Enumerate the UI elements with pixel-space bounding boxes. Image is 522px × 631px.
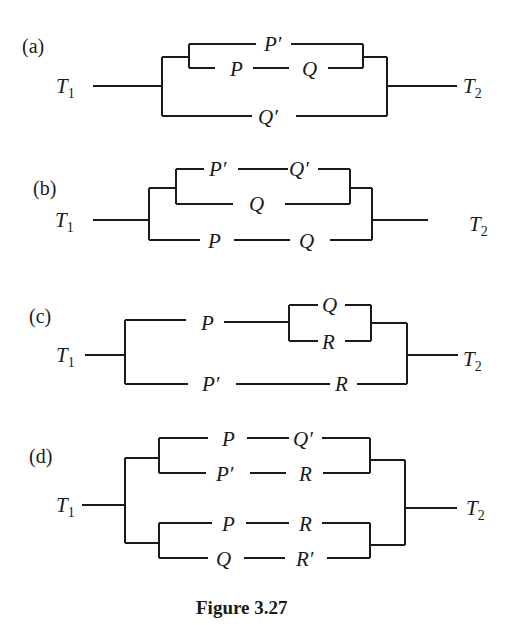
switch-d-g1-top-left: P xyxy=(221,427,235,451)
terminal-t2-a: T2 xyxy=(463,74,482,101)
circuit-a: (a) T1 T2 P′ P Q Q′ xyxy=(22,32,482,129)
switch-a-mid-left: P xyxy=(229,57,243,81)
switch-a-bottom: Q′ xyxy=(258,105,278,129)
switch-b-top-left: P′ xyxy=(208,157,227,181)
wires-d xyxy=(82,438,457,558)
switch-d-g2-top-left: P xyxy=(221,512,235,536)
figure-caption: Figure 3.27 xyxy=(196,597,288,618)
circuit-label-c: (c) xyxy=(29,305,51,328)
terminal-t1-c: T1 xyxy=(56,343,75,370)
terminal-t2-b: T2 xyxy=(469,212,488,239)
switch-d-g2-bot-right: R′ xyxy=(295,547,314,571)
switch-c-inner-top: Q xyxy=(322,293,337,317)
switch-d-g1-bot-right: R xyxy=(298,462,312,486)
switch-b-mid: Q xyxy=(249,192,264,216)
switch-c-top-left: P xyxy=(200,311,214,335)
switch-a-top: P′ xyxy=(263,32,282,56)
terminal-t1-d: T1 xyxy=(56,493,75,520)
switch-d-g2-bot-left: Q xyxy=(216,547,231,571)
circuit-b: (b) T1 T2 P′ Q′ Q P Q xyxy=(33,157,488,253)
switch-d-g1-bot-left: P′ xyxy=(215,462,234,486)
switch-b-bottom-right: Q xyxy=(299,229,314,253)
terminal-t1-a: T1 xyxy=(56,74,75,101)
switch-c-inner-bottom: R xyxy=(321,330,335,354)
switch-c-bottom-right: R xyxy=(334,372,348,396)
terminal-t1-b: T1 xyxy=(55,208,74,235)
switching-circuits-figure: (a) T1 T2 P′ P Q Q′ (b) T1 T2 P′ Q′ Q P … xyxy=(0,0,522,631)
circuit-label-d: (d) xyxy=(29,445,52,468)
circuit-label-b: (b) xyxy=(33,177,56,200)
switch-b-bottom-left: P xyxy=(207,229,221,253)
terminal-t2-d: T2 xyxy=(466,496,485,523)
switch-d-g2-top-right: R xyxy=(298,512,312,536)
switch-b-top-right: Q′ xyxy=(289,157,309,181)
circuit-label-a: (a) xyxy=(22,35,44,58)
switch-c-bottom-left: P′ xyxy=(201,372,220,396)
switch-a-mid-right: Q xyxy=(302,57,317,81)
circuit-c: (c) T1 T2 P Q R P′ R xyxy=(29,293,482,396)
circuit-d: (d) T1 T2 P Q′ P′ R P R Q R′ xyxy=(29,427,485,571)
switch-d-g1-top-right: Q′ xyxy=(293,427,313,451)
wires-c xyxy=(85,305,458,384)
terminal-t2-c: T2 xyxy=(463,347,482,374)
